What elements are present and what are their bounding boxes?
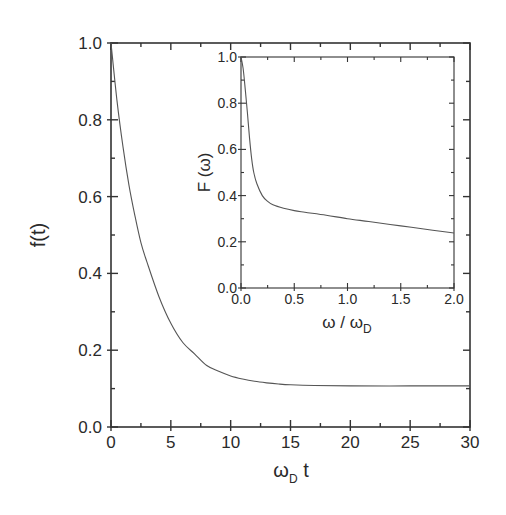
y-tick-label: 0.0 <box>218 280 238 296</box>
main-x-tick-labels: 051015202530 <box>106 433 479 452</box>
inset-y-axis-title: F (ω) <box>195 153 214 193</box>
y-tick-label: 0.4 <box>78 264 102 283</box>
y-tick-label: 1.0 <box>78 34 102 53</box>
x-tick-label: 1.0 <box>338 291 358 307</box>
y-tick-label: 0.2 <box>218 234 238 250</box>
main-y-axis-title: f(t) <box>27 223 49 247</box>
y-tick-label: 0.8 <box>78 111 102 130</box>
inset-y-tick-labels: 0.00.20.40.60.81.0 <box>218 49 238 296</box>
main-y-tick-labels: 0.00.20.40.60.81.0 <box>78 34 102 437</box>
x-tick-label: 20 <box>341 433 360 452</box>
main-x-axis-title-suffix: t <box>298 459 310 481</box>
main-x-axis-title: ωD t <box>273 459 309 486</box>
x-tick-label: 0.5 <box>285 291 305 307</box>
x-tick-label: 30 <box>461 433 480 452</box>
chart-canvas: 051015202530 0.00.20.40.60.81.0 ωD t f(t… <box>0 0 506 515</box>
inset-x-axis-title: ω / ωD <box>322 313 372 336</box>
inset-x-axis-title-subscript: D <box>363 322 372 336</box>
x-tick-label: 2.0 <box>444 291 464 307</box>
inset-x-tick-labels: 0.00.51.01.52.0 <box>231 291 464 307</box>
main-x-axis-title-subscript: D <box>289 472 298 486</box>
y-tick-label: 1.0 <box>218 49 238 65</box>
x-tick-label: 15 <box>281 433 300 452</box>
inset-background <box>241 57 454 288</box>
x-tick-label: 25 <box>401 433 420 452</box>
y-tick-label: 0.8 <box>218 95 238 111</box>
x-tick-label: 5 <box>166 433 175 452</box>
x-tick-label: 1.5 <box>391 291 411 307</box>
main-x-axis-title-symbol: ω <box>273 459 289 481</box>
y-tick-label: 0.4 <box>218 188 238 204</box>
y-tick-label: 0.0 <box>78 418 102 437</box>
inset-x-axis-title-symbol: ω / ω <box>322 313 363 332</box>
x-tick-label: 10 <box>221 433 240 452</box>
y-tick-label: 0.2 <box>78 341 102 360</box>
y-tick-label: 0.6 <box>78 188 102 207</box>
inset-plot: 0.00.51.01.52.0 0.00.20.40.60.81.0 ω / ω… <box>195 49 464 336</box>
x-tick-label: 0 <box>106 433 115 452</box>
y-tick-label: 0.6 <box>218 141 238 157</box>
